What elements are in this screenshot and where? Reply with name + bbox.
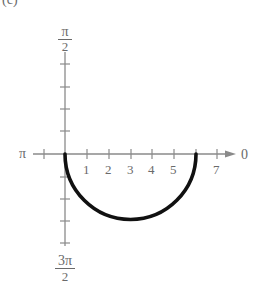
svg-text:2: 2 <box>105 162 112 177</box>
svg-text:1: 1 <box>83 162 90 177</box>
axis-label-pi: π <box>19 146 26 161</box>
svg-text:3π: 3π <box>58 253 72 268</box>
axis-label-zero: 0 <box>241 147 248 162</box>
svg-text:2: 2 <box>62 269 69 284</box>
svg-text:5: 5 <box>170 162 177 177</box>
svg-text:π: π <box>61 24 68 39</box>
svg-text:3: 3 <box>127 162 134 177</box>
svg-text:2: 2 <box>62 39 69 54</box>
arrow-icon <box>225 151 236 158</box>
panel-label: (c) <box>2 0 18 8</box>
svg-text:4: 4 <box>148 162 155 177</box>
polar-plot: (c) 0 π 1 2 3 4 5 7 π 2 <box>0 0 267 302</box>
svg-text:7: 7 <box>213 162 220 177</box>
axis-label-3pi-over-2: 3π 2 <box>55 253 75 284</box>
x-tick-labels: 1 2 3 4 5 7 <box>83 162 220 177</box>
axis-label-pi-over-2: π 2 <box>58 24 72 54</box>
